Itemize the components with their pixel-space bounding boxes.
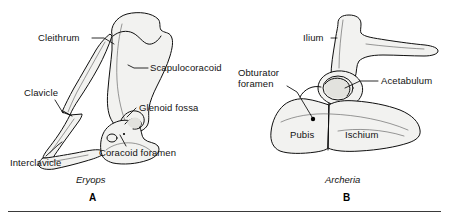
label-ilium: Ilium [303, 32, 324, 43]
leader-clavicle [55, 100, 63, 113]
label-scapulocoracoid: Scapulocoracoid [150, 62, 222, 73]
panel-letter-a: A [89, 192, 96, 203]
clavicle-bone [43, 114, 82, 158]
label-ischium: Ischium [345, 129, 378, 140]
label-acetabulum: Acetabulum [381, 75, 432, 86]
label-interclavicle: Interclavicle [10, 157, 61, 168]
genus-name-archeria: Archeria [325, 174, 360, 185]
label-pubis: Pubis [290, 129, 314, 140]
figure-panel-container: Cleithrum Scapulocoracoid Clavicle Gleno… [0, 0, 449, 224]
label-clavicle: Clavicle [24, 87, 58, 98]
coracoid-foramen-dot [123, 133, 125, 135]
pubis-bone [271, 99, 329, 154]
panel-letter-b: B [343, 192, 350, 203]
label-cleithrum: Cleithrum [38, 32, 80, 43]
clavicle-shading [50, 119, 74, 153]
label-obturator-foramen-line1: Obturator [238, 67, 279, 78]
figure-bottom-divider [8, 211, 441, 212]
genus-name-eryops: Eryops [76, 174, 106, 185]
label-obturator-foramen-line2: foramen [238, 78, 274, 89]
ischium-bone [328, 101, 420, 152]
label-glenoid-fossa: Glenoid fossa [139, 102, 198, 113]
obturator-foramen-dot [311, 117, 315, 121]
label-coracoid-foramen: Coracoid foramen [99, 147, 176, 158]
